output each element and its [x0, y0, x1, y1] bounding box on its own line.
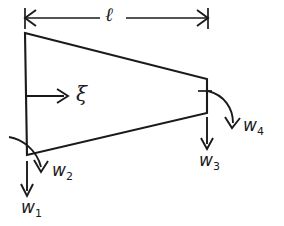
diagram-svg: [0, 0, 284, 226]
w3-arrow-group: [201, 117, 213, 149]
length-dimension-group: [25, 8, 208, 29]
w1-label-base: w: [21, 197, 35, 217]
w2-label-subscript: 2: [66, 170, 73, 183]
w4-arc-shaft: [208, 91, 233, 123]
w1-label: w1: [21, 199, 42, 219]
w4-moment-arc-group: [198, 91, 240, 128]
w1-arrow-group: [21, 161, 33, 196]
w3-label: w3: [199, 152, 220, 172]
xi-label: ξ: [76, 84, 87, 104]
w3-label-subscript: 3: [213, 160, 220, 173]
length-dimension-label: ℓ: [105, 5, 113, 24]
w4-label: w4: [243, 117, 264, 137]
w4-label-subscript: 4: [257, 125, 264, 138]
w2-label: w2: [52, 162, 73, 182]
tapered-beam-outline: [25, 33, 207, 155]
xi-arrow-group: [27, 89, 68, 103]
w2-label-base: w: [52, 160, 66, 180]
w4-label-base: w: [243, 115, 257, 135]
w3-label-base: w: [199, 150, 213, 170]
w1-label-subscript: 1: [35, 207, 42, 220]
figure-canvas: ℓ ξ w1 w2 w3 w4: [0, 0, 284, 226]
